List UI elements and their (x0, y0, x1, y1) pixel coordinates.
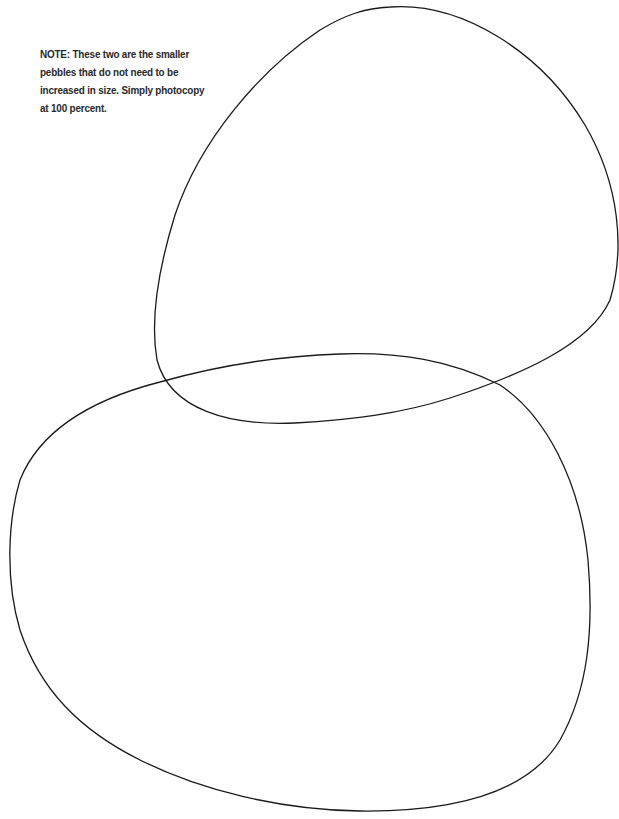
pebble-outlines (0, 0, 619, 819)
upper-pebble-outline (154, 7, 618, 424)
template-page: NOTE: These two are the smaller pebbles … (0, 0, 619, 819)
